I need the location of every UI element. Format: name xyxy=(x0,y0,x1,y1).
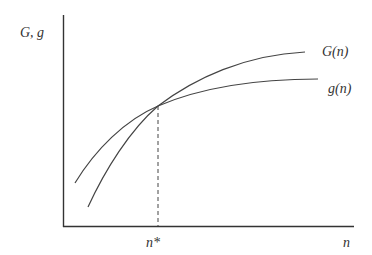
n-star-label: n* xyxy=(146,235,160,250)
y-axis-label: G, g xyxy=(20,25,44,40)
x-axis-label: n xyxy=(343,235,350,250)
curve-G-label: G(n) xyxy=(322,44,349,60)
diagram: G, g G(n) g(n) n* n xyxy=(0,0,372,255)
curve-g xyxy=(75,79,318,183)
curve-g-label: g(n) xyxy=(328,81,352,97)
